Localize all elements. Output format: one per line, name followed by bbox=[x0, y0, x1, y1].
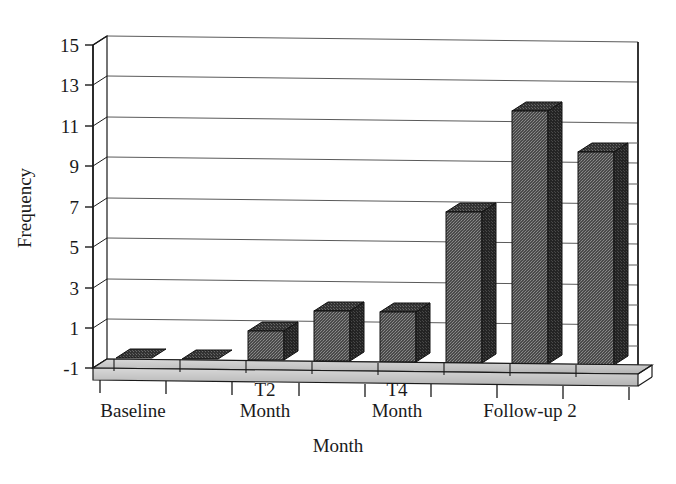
xtick-label-t2-line1: T2 bbox=[254, 379, 275, 400]
bar-3 bbox=[248, 322, 298, 360]
ytick-label-3: 3 bbox=[70, 278, 80, 299]
ytick-label-minus1: -1 bbox=[63, 358, 79, 379]
ytick-label-5: 5 bbox=[70, 237, 80, 258]
xtick-label-t4-line1: T4 bbox=[386, 379, 408, 400]
xtick-label-followup2: Follow-up 2 bbox=[483, 400, 576, 421]
bar-chart-figure: 15 13 11 9 7 5 3 1 -1 Frequency bbox=[0, 0, 676, 484]
ytick-label-1: 1 bbox=[70, 318, 80, 339]
ytick-label-9: 9 bbox=[70, 156, 80, 177]
bar-6 bbox=[446, 203, 496, 363]
xtick-label-t2-line2: Month bbox=[240, 400, 291, 421]
x-axis-title: Month bbox=[313, 435, 364, 456]
bar-7 bbox=[512, 102, 562, 364]
xtick-label-t4-line2: Month bbox=[372, 400, 423, 421]
bar-8 bbox=[578, 143, 628, 365]
chart-root: 15 13 11 9 7 5 3 1 -1 Frequency bbox=[0, 0, 676, 484]
plot-left-wall bbox=[93, 36, 107, 368]
ytick-label-15: 15 bbox=[60, 35, 79, 56]
ytick-label-7: 7 bbox=[70, 197, 80, 218]
bar-5 bbox=[380, 303, 430, 362]
ytick-label-13: 13 bbox=[60, 75, 79, 96]
bar-4 bbox=[314, 302, 364, 361]
ytick-label-11: 11 bbox=[61, 116, 79, 137]
y-axis-title: Frequency bbox=[14, 167, 35, 248]
xtick-label-baseline: Baseline bbox=[100, 400, 165, 421]
